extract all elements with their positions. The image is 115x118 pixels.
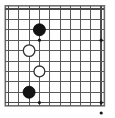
black-stone-lower[interactable] xyxy=(23,86,35,98)
hoshi-c10-r4-icon xyxy=(100,39,103,42)
goban[interactable] xyxy=(0,0,115,118)
white-stone-lower-disc[interactable] xyxy=(34,66,45,77)
black-stone-upper[interactable] xyxy=(33,24,45,36)
white-stone-upper[interactable] xyxy=(23,45,35,57)
hoshi-c4-r4-icon xyxy=(38,39,41,42)
goban-svg[interactable] xyxy=(0,0,115,118)
black-stone-lower-disc[interactable] xyxy=(23,86,35,98)
go-board-diagram: Go board position diagram xyxy=(0,0,115,118)
hoshi-c10-r11-icon xyxy=(100,111,103,114)
white-stone-lower[interactable] xyxy=(34,66,45,77)
white-stone-upper-disc[interactable] xyxy=(23,45,35,57)
black-stone-upper-disc[interactable] xyxy=(33,24,45,36)
board-background xyxy=(0,0,115,118)
hoshi-c4-r10-icon xyxy=(38,101,41,104)
hoshi-c10-r10-icon xyxy=(100,101,103,104)
